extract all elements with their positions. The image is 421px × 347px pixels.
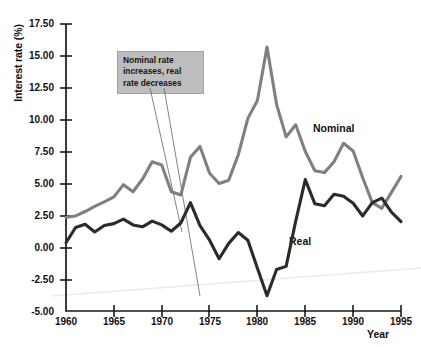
interest-rate-chart: Interest rate (%) Year 17.50 15.00 12.50… <box>0 0 421 347</box>
plot-area <box>0 0 421 347</box>
scan-artifact-line <box>52 268 421 296</box>
series-line-nominal <box>66 47 401 217</box>
series-line-real <box>66 180 401 296</box>
